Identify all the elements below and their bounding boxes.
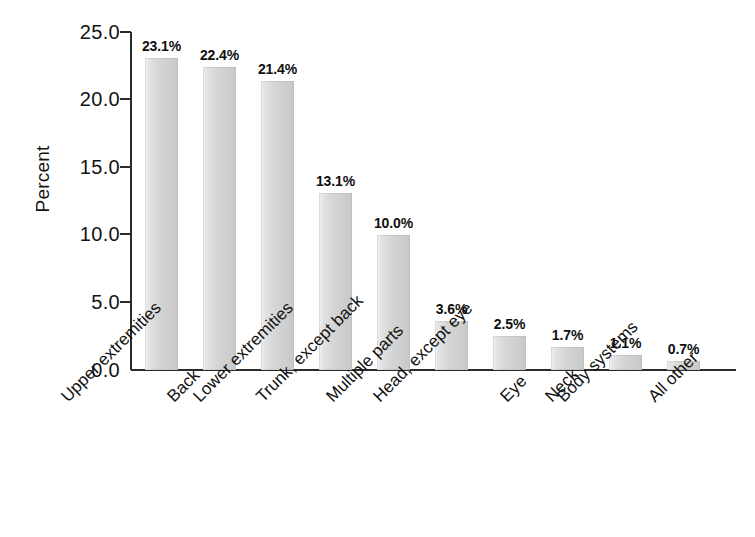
x-axis-category-label: Upper extremities — [58, 299, 164, 405]
x-axis-category-label: Body systems — [554, 318, 641, 405]
bar-chart: Percent 25.0 20.0 15.0 10.0 5.0 0.0 23.1… — [0, 0, 755, 537]
x-axis-category-labels: Upper extremities Back Lower extremities… — [0, 0, 755, 537]
x-axis-category-label: Eye — [497, 372, 530, 405]
x-axis-category-label: All other — [645, 349, 701, 405]
